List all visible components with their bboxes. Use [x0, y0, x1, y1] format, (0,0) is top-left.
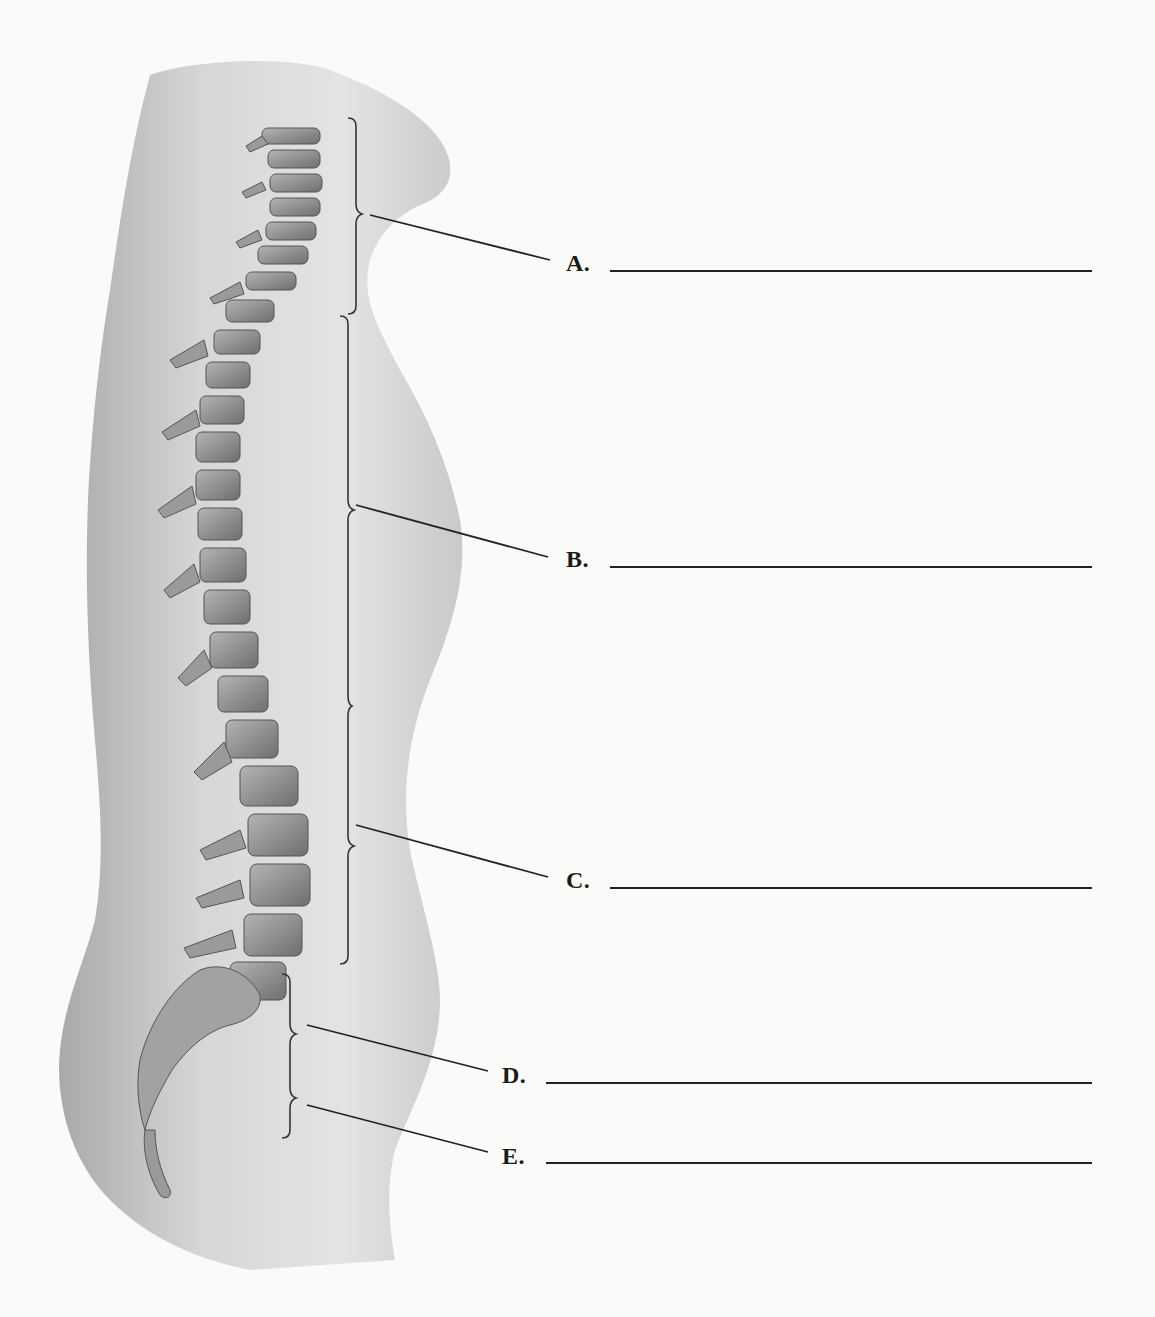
- label-c: C.: [566, 867, 590, 894]
- torso-silhouette: [59, 61, 462, 1270]
- spine-illustration: [0, 0, 1155, 1317]
- label-b: B.: [566, 546, 589, 573]
- answer-blank-c[interactable]: [610, 887, 1092, 889]
- answer-blank-e[interactable]: [546, 1162, 1092, 1164]
- label-e: E.: [502, 1143, 525, 1170]
- label-d: D.: [502, 1062, 526, 1089]
- answer-blank-b[interactable]: [610, 566, 1092, 568]
- answer-blank-d[interactable]: [546, 1082, 1092, 1084]
- label-a: A.: [566, 250, 590, 277]
- answer-blank-a[interactable]: [610, 270, 1092, 272]
